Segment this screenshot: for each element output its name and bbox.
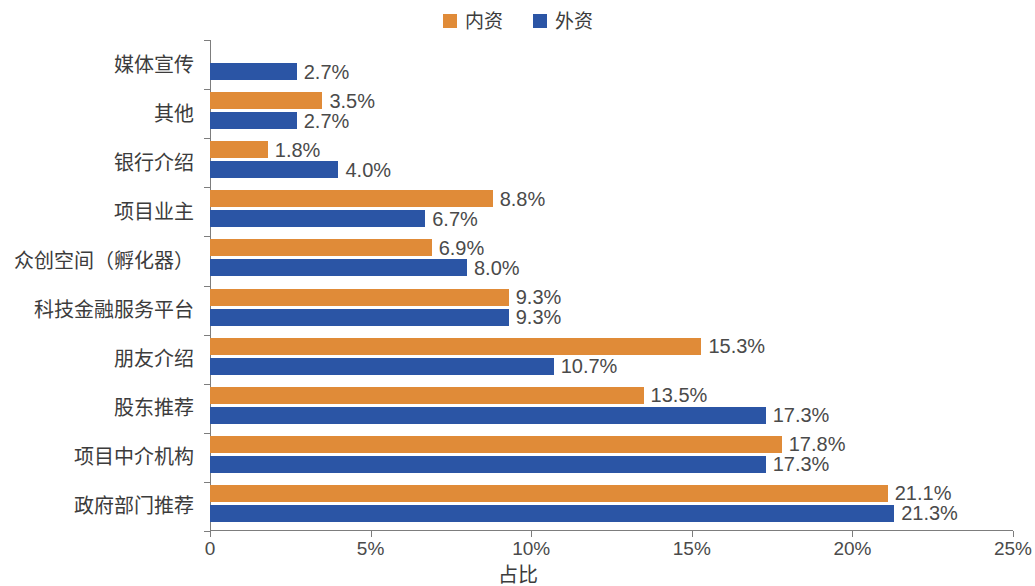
bar-foreign: 10.7% — [210, 358, 554, 375]
bar-value-label: 2.7% — [304, 62, 350, 82]
category-label: 众创空间（孵化器） — [14, 250, 194, 272]
category-label: 项目中介机构 — [74, 446, 194, 468]
bar-value-label: 21.1% — [895, 483, 952, 503]
bar-group: 科技金融服务平台9.3%9.3% — [210, 286, 1013, 335]
bar-foreign: 4.0% — [210, 161, 338, 178]
bar-group: 朋友介绍15.3%10.7% — [210, 335, 1013, 384]
legend-swatch-domestic — [443, 14, 457, 28]
bar-domestic: 8.8% — [210, 190, 493, 207]
bar-domestic: 15.3% — [210, 338, 701, 355]
bar-foreign: 9.3% — [210, 309, 509, 326]
legend-entry-domestic: 内资 — [443, 12, 503, 31]
bar-value-label: 4.0% — [345, 160, 391, 180]
x-axis-tick-label: 25% — [994, 538, 1032, 560]
category-label: 银行介绍 — [114, 152, 194, 174]
legend-swatch-foreign — [533, 14, 547, 28]
bar-domestic: 13.5% — [210, 387, 644, 404]
bar-value-label: 10.7% — [561, 356, 618, 376]
bar-domestic: 21.1% — [210, 485, 888, 502]
x-axis-title: 占比 — [0, 564, 1035, 586]
bar-domestic: 9.3% — [210, 289, 509, 306]
bar-foreign: 17.3% — [210, 407, 766, 424]
bar-group: 媒体宣传2.7% — [210, 40, 1013, 89]
category-label: 其他 — [154, 103, 194, 125]
bar-domestic: 1.8% — [210, 141, 268, 158]
bar-value-label: 17.3% — [773, 454, 830, 474]
bar-value-label: 6.9% — [439, 238, 485, 258]
bar-foreign: 6.7% — [210, 210, 425, 227]
bar-group: 项目业主8.8%6.7% — [210, 187, 1013, 236]
bar-foreign: 8.0% — [210, 259, 467, 276]
legend-label-domestic: 内资 — [465, 12, 503, 31]
bar-value-label: 17.8% — [789, 434, 846, 454]
bar-foreign: 2.7% — [210, 112, 297, 129]
x-axis-tick — [852, 531, 853, 537]
x-axis-tick — [692, 531, 693, 537]
bar-foreign: 17.3% — [210, 456, 766, 473]
bar-domestic: 17.8% — [210, 436, 782, 453]
bar-chart-plot-area: 05%10%15%20%25% 媒体宣传2.7%其他3.5%2.7%银行介绍1.… — [210, 40, 1013, 531]
bar-group: 政府部门推荐21.1%21.3% — [210, 482, 1013, 531]
legend-label-foreign: 外资 — [555, 12, 593, 31]
bar-group: 众创空间（孵化器）6.9%8.0% — [210, 236, 1013, 285]
chart-legend: 内资 外资 — [0, 8, 1035, 34]
bar-value-label: 3.5% — [329, 91, 375, 111]
legend-entry-foreign: 外资 — [533, 12, 593, 31]
bar-value-label: 13.5% — [651, 385, 708, 405]
bar-value-label: 1.8% — [275, 140, 321, 160]
bar-domestic: 6.9% — [210, 239, 432, 256]
bar-value-label: 17.3% — [773, 405, 830, 425]
category-label: 媒体宣传 — [114, 54, 194, 76]
bar-value-label: 6.7% — [432, 209, 478, 229]
bar-group: 股东推荐13.5%17.3% — [210, 384, 1013, 433]
x-axis-tick — [1013, 531, 1014, 537]
x-axis-tick-label: 20% — [833, 538, 871, 560]
bar-group: 项目中介机构17.8%17.3% — [210, 433, 1013, 482]
bar-foreign: 21.3% — [210, 505, 894, 522]
x-axis-tick-label: 10% — [512, 538, 550, 560]
category-label: 股东推荐 — [114, 397, 194, 419]
category-label: 项目业主 — [114, 201, 194, 223]
bar-value-label: 2.7% — [304, 111, 350, 131]
bar-value-label: 15.3% — [708, 336, 765, 356]
bar-foreign: 2.7% — [210, 63, 297, 80]
x-axis-tick-label: 5% — [357, 538, 384, 560]
x-axis-tick — [371, 531, 372, 537]
bar-group: 银行介绍1.8%4.0% — [210, 138, 1013, 187]
bar-domestic: 3.5% — [210, 92, 322, 109]
x-axis-tick-label: 0 — [205, 538, 216, 560]
bar-value-label: 9.3% — [516, 287, 562, 307]
category-label: 科技金融服务平台 — [34, 299, 194, 321]
x-axis-tick — [531, 531, 532, 537]
bar-group: 其他3.5%2.7% — [210, 89, 1013, 138]
category-label: 政府部门推荐 — [74, 495, 194, 517]
bar-value-label: 9.3% — [516, 307, 562, 327]
bar-value-label: 21.3% — [901, 503, 958, 523]
bar-value-label: 8.8% — [500, 189, 546, 209]
x-axis-tick-label: 15% — [673, 538, 711, 560]
category-label: 朋友介绍 — [114, 348, 194, 370]
x-axis-tick — [210, 531, 211, 537]
bar-value-label: 8.0% — [474, 258, 520, 278]
